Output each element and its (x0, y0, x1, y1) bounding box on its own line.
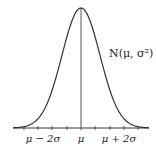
normal-distribution-figure: N(μ, σ²) μ − 2σ μ μ + 2σ (0, 0, 156, 153)
distribution-label: N(μ, σ²) (109, 48, 153, 59)
normal-curve-plot (0, 0, 156, 153)
tick-label-mu: μ (78, 134, 85, 144)
tick-label-mu-plus-2sigma: μ + 2σ (102, 134, 136, 144)
tick-label-mu-minus-2sigma: μ − 2σ (26, 134, 60, 144)
